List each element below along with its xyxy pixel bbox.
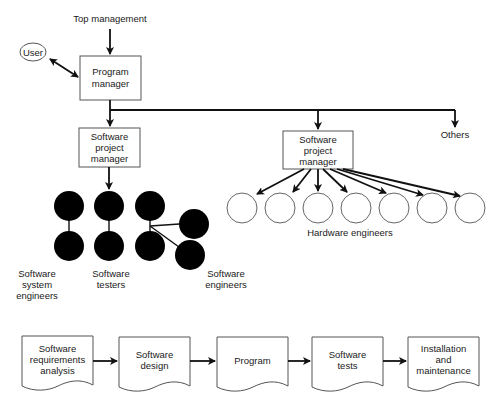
top-management-label: Top management (73, 13, 147, 24)
step5-line2: and (436, 354, 452, 365)
hardware-staff-group (227, 193, 485, 223)
sw-engineer-node (135, 231, 165, 261)
program-manager-line1: Program (92, 66, 129, 77)
tester-node (94, 231, 124, 261)
testers-line2: testers (97, 279, 126, 290)
user-label: User (23, 47, 43, 58)
org-diagram: Top management User Program manager Othe… (0, 0, 500, 409)
others-label: Others (441, 129, 470, 140)
step2-line1: Software (136, 349, 174, 360)
hardware-engineer-node (455, 193, 485, 223)
system-engineers-line3: engineers (16, 290, 58, 301)
process-flow: Software requirements analysis Software … (22, 336, 479, 391)
tester-node (94, 191, 124, 221)
software-staff-group (54, 191, 209, 270)
spm-left-line2: project (95, 142, 124, 153)
hardware-engineer-node (341, 193, 371, 223)
testers-line1: Software (92, 268, 130, 279)
sw-engineers-line1: Software (207, 268, 245, 279)
hardware-engineer-node (265, 193, 295, 223)
hardware-engineer-node (303, 193, 333, 223)
sw-engineer-node (175, 240, 205, 270)
step3-line1: Program (234, 355, 271, 366)
spm-right-line1: Software (299, 134, 337, 145)
step4-line1: Software (329, 349, 367, 360)
step5-line3: maintenance (416, 365, 470, 376)
step4-line2: tests (337, 360, 357, 371)
sw-engineer-node (179, 209, 209, 239)
system-engineer-node (54, 231, 84, 261)
hardware-engineer-node (417, 193, 447, 223)
program-manager-line2: manager (92, 78, 130, 89)
spm-left-line3: manager (91, 153, 129, 164)
system-engineers-line1: Software (18, 268, 56, 279)
step1-line1: Software (39, 343, 77, 354)
hardware-engineer-node (379, 193, 409, 223)
step1-line3: analysis (40, 365, 75, 376)
hardware-engineers-label: Hardware engineers (307, 227, 393, 238)
hardware-engineer-node (227, 193, 257, 223)
spm-left-line1: Software (91, 131, 129, 142)
hardware-arrows (257, 169, 460, 196)
step1-line2: requirements (30, 354, 86, 365)
arrow-user-pm (50, 59, 78, 77)
system-engineers-line2: system (22, 279, 52, 290)
spm-right-line2: project (304, 145, 333, 156)
system-engineer-node (54, 191, 84, 221)
step5-line1: Installation (421, 343, 466, 354)
sw-engineers-line2: engineers (205, 279, 247, 290)
sw-engineer-node (135, 191, 165, 221)
step2-line2: design (141, 360, 169, 371)
spm-right-line3: manager (299, 156, 337, 167)
